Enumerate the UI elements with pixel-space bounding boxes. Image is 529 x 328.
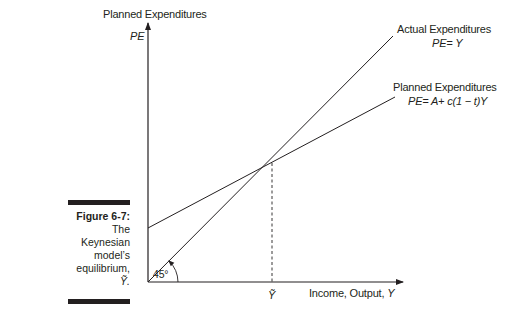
caption-top-bar [68, 200, 130, 205]
x-axis-title: Income, Output, Y [309, 287, 394, 299]
y-axis-title: Planned Expenditures [103, 8, 207, 20]
angle-arc [169, 261, 178, 282]
planned-expenditures-line [148, 97, 395, 228]
equilibrium-output-tick: Ỹ [268, 289, 275, 301]
caption-bottom-bar [68, 299, 130, 304]
planned-expenditures-label: Planned Expenditures [393, 81, 497, 93]
caption-line: The [50, 223, 130, 236]
angle-label: 45° [153, 268, 168, 280]
actual-expenditures-line [148, 36, 393, 282]
caption-line: Ỹ. [50, 275, 130, 288]
caption-label: Figure 6-7: [50, 210, 130, 223]
actual-expenditures-equation: PE= Y [432, 37, 462, 49]
y-axis-symbol: PE [130, 30, 144, 42]
x-axis-title-text: Income, Output, [309, 287, 387, 299]
planned-expenditures-equation: PE= A+ c(1 − t)Y [408, 95, 487, 107]
caption-line: model’s [50, 249, 130, 262]
figure-caption: Figure 6-7: The Keynesian model’s equili… [50, 210, 130, 288]
caption-line: Keynesian [50, 236, 130, 249]
x-axis-title-var: Y [387, 287, 394, 299]
caption-line: equilibrium, [50, 262, 130, 275]
actual-expenditures-label: Actual Expenditures [397, 23, 491, 35]
